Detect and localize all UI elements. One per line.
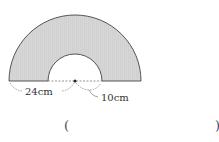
inner-label-leader — [89, 90, 98, 97]
answer-open-paren: ( — [64, 118, 69, 133]
outer-radius-brace-right — [62, 83, 74, 91]
inner-radius-brace — [76, 83, 101, 90]
shaded-ring — [9, 15, 141, 81]
inner-length-label: 10cm — [101, 92, 129, 103]
center-point — [74, 80, 77, 83]
answer-close-paren: ) — [215, 118, 219, 133]
outer-length-label: 24cm — [25, 86, 53, 97]
semicircle-ring-figure — [0, 0, 219, 142]
outer-radius-brace — [10, 83, 22, 91]
